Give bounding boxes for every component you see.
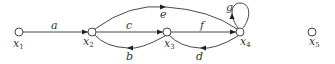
edge-e: e (95, 5, 237, 30)
svg-text:x2: x2 (83, 35, 94, 49)
edge-f: f (171, 19, 236, 35)
edge-b: b (95, 35, 165, 63)
svg-text:x4: x4 (240, 35, 251, 49)
svg-text:a: a (51, 19, 58, 32)
svg-text:b: b (126, 50, 133, 63)
node-x3: x3 (163, 28, 175, 51)
svg-text:x5: x5 (309, 35, 320, 49)
edge-d: d (169, 35, 238, 63)
signal-flow-graph: a c f e b d g x1 x2 (0, 0, 335, 64)
node-x5: x5 (308, 28, 320, 49)
svg-text:g: g (226, 1, 233, 14)
svg-text:c: c (126, 19, 132, 32)
svg-text:d: d (196, 50, 203, 63)
node-x4: x4 (236, 28, 251, 49)
edge-a: a (23, 19, 88, 35)
svg-text:x1: x1 (13, 37, 24, 51)
svg-text:f: f (199, 19, 206, 32)
node-x1: x1 (13, 28, 24, 51)
svg-text:e: e (160, 8, 167, 21)
